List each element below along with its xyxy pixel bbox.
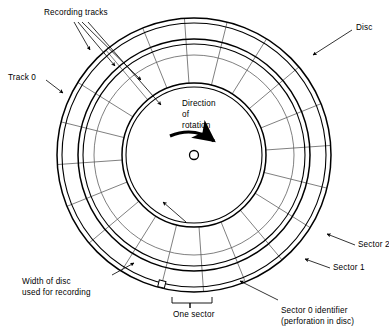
label-track-zero: Track 0 (8, 73, 36, 84)
track-circle (78, 39, 310, 271)
track-circle (62, 23, 326, 287)
disc-diagram-figure: Recording tracks Track 0 Disc Direction … (0, 0, 389, 336)
label-direction-line1: Direction (182, 99, 216, 110)
one-sector-bracket-icon (172, 297, 212, 308)
sector-divider-line (184, 18, 189, 83)
leader-sector-two (327, 234, 355, 245)
leader-track-zero (46, 80, 63, 93)
label-sector-two: Sector 2 (358, 240, 389, 251)
track-circle (94, 55, 294, 255)
sector-divider-line (161, 225, 177, 288)
track-circle (83, 44, 305, 266)
sector-divider-line (199, 227, 204, 292)
label-width-line2: used for recording (22, 288, 91, 299)
leader-recording-tracks-3 (82, 22, 141, 80)
sector-divider-line (57, 160, 122, 165)
sector-divider-line (264, 172, 327, 188)
sector-divider-line (211, 22, 227, 85)
sector-divider-line (143, 28, 167, 88)
leader-disc (313, 30, 352, 55)
label-sector-zero-line1: Sector 0 identifier (281, 306, 348, 317)
track-rings (57, 18, 331, 292)
sector-zero-perforation (158, 280, 166, 288)
label-sector-one: Sector 1 (333, 263, 365, 274)
sector-divider-line (67, 182, 127, 206)
leader-inner-track (163, 202, 186, 222)
label-sector-zero-line2: (perforation in disc) (281, 317, 354, 328)
leader-sector-zero (240, 281, 278, 300)
label-one-sector: One sector (173, 310, 215, 321)
sector-divider-lines (57, 18, 330, 291)
leader-sector-one (305, 259, 330, 268)
label-recording-tracks: Recording tracks (44, 8, 108, 19)
sector-divider-line (221, 222, 245, 282)
sector-divider-line (266, 145, 331, 150)
label-disc: Disc (356, 23, 373, 34)
label-width-line1: Width of disc (22, 277, 71, 288)
sector-divider-line (61, 122, 124, 138)
spindle-hole-icon (190, 151, 199, 160)
sector-divider-line (261, 104, 321, 128)
sector-zero-perforation-icon (158, 280, 166, 288)
rotation-arrow-icon (170, 132, 214, 141)
label-direction-line2: of (182, 110, 189, 121)
track-circle (57, 18, 331, 292)
label-direction-line3: rotation (182, 121, 211, 132)
leader-width-of-disc (112, 263, 134, 275)
